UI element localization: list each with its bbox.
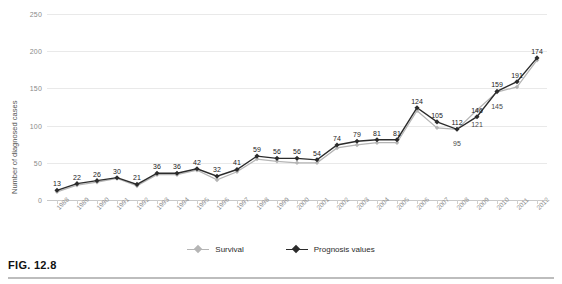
data-point-marker [294, 156, 299, 161]
data-point-label: 145 [491, 103, 503, 110]
data-point-label: 36 [153, 163, 161, 170]
legend-marker-icon [286, 245, 308, 254]
data-point-label: 191 [511, 72, 523, 79]
data-point-label: 79 [353, 131, 361, 138]
data-point-marker [374, 137, 379, 142]
x-axis-ticks: 1988198919901991199219931994199519961997… [47, 200, 547, 240]
data-point-label: 42 [193, 159, 201, 166]
data-point-label: 112 [451, 119, 462, 126]
data-point-marker [295, 161, 300, 166]
data-point-label: 146 [471, 107, 483, 114]
series-line-survival [57, 60, 537, 192]
data-point-marker [274, 156, 279, 161]
data-point-label: 41 [233, 159, 241, 166]
data-point-label: 56 [293, 148, 301, 155]
data-point-label: 159 [491, 81, 503, 88]
data-point-label: 36 [173, 163, 181, 170]
plot-area: 1322263021363642324159565654747981811241… [47, 14, 547, 200]
data-point-label: 13 [53, 180, 61, 187]
data-point-label: 174 [531, 48, 543, 55]
y-tick-label: 100 [12, 122, 42, 129]
data-point-label: 32 [213, 166, 221, 173]
caption-block: FIG. 12.8 [0, 258, 562, 284]
data-point-label: 56 [273, 148, 281, 155]
data-point-label: 22 [73, 174, 81, 181]
figure-caption: FIG. 12.8 [8, 259, 57, 271]
data-point-label: 81 [393, 130, 401, 137]
legend-label: Survival [215, 245, 243, 254]
data-point-marker [354, 139, 359, 144]
data-point-label: 121 [471, 121, 483, 128]
data-point-label: 124 [411, 98, 423, 105]
y-tick-label: 0 [12, 197, 42, 204]
figure-root: Number of diagnosed cases 05010015020025… [0, 0, 562, 284]
data-point-label: 21 [133, 174, 141, 181]
legend-label: Prognosis values [314, 245, 375, 254]
legend-item[interactable]: Survival [187, 245, 243, 254]
y-tick-label: 50 [12, 159, 42, 166]
y-tick-label: 150 [12, 85, 42, 92]
data-point-label: 95 [453, 140, 461, 147]
y-axis-ticks: 050100150200250 [10, 14, 42, 200]
data-point-label: 105 [431, 112, 443, 119]
chart-legend: SurvivalPrognosis values [0, 240, 562, 258]
y-tick-label: 200 [12, 48, 42, 55]
series-line-prognosis-values [57, 58, 537, 190]
data-point-label: 26 [93, 171, 101, 178]
data-point-label: 74 [333, 135, 341, 142]
data-point-marker [214, 174, 219, 179]
legend-item[interactable]: Prognosis values [286, 245, 375, 254]
legend-marker-icon [187, 245, 209, 254]
caption-rule [8, 277, 554, 279]
data-point-label: 59 [253, 146, 261, 153]
chart-area: Number of diagnosed cases 05010015020025… [0, 0, 562, 240]
data-point-label: 30 [113, 168, 121, 175]
data-point-label: 54 [313, 150, 321, 157]
data-point-label: 81 [373, 130, 381, 137]
y-tick-label: 250 [12, 11, 42, 18]
